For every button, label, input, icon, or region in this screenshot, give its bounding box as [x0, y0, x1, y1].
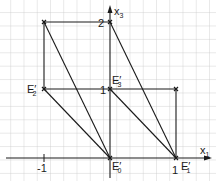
tick-label-x3-1: 1	[100, 84, 106, 96]
coordinate-diagram: x3 x1 2 1 -1 1 E′2 E′3 E′0 E′1	[0, 0, 216, 181]
point-label-e2: E′2	[27, 83, 36, 97]
point-label-e3: E′3	[112, 74, 121, 88]
tick-label-x1-1: 1	[172, 164, 178, 176]
tick-label-x3-2: 2	[98, 17, 104, 29]
point-label-e1: E′1	[181, 160, 190, 174]
point-label-e0: E′0	[112, 160, 121, 174]
tick-label-x1-neg1: -1	[37, 162, 47, 174]
